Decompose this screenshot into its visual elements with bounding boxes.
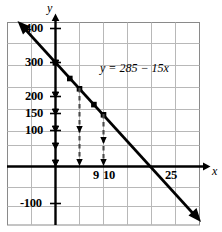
x-axis-label: x <box>212 165 217 177</box>
x-tick-label-9: 9 <box>93 169 99 182</box>
y-tick-label-200: 200 <box>25 90 43 103</box>
y-tick-label-negative-100: -100 <box>20 197 42 210</box>
equation-annotation: y = 285 − 15x <box>100 62 169 74</box>
y-axis-label: y <box>47 2 52 14</box>
x-tick-label-10: 10 <box>103 169 115 182</box>
y-tick-label-100: 100 <box>25 124 43 137</box>
y-tick-label-400: 400 <box>25 22 43 35</box>
y-tick-label-150: 150 <box>25 107 43 120</box>
x-tick-label-25: 25 <box>165 169 177 182</box>
graph-figure: y x 400 300 200 150 100 -100 9 10 25 y =… <box>0 0 222 232</box>
y-tick-label-300: 300 <box>25 56 43 69</box>
